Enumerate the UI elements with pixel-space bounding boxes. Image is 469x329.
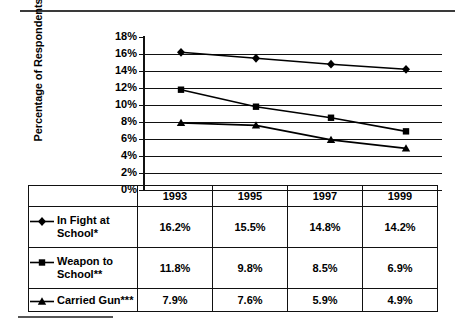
line-chart: Percentage of Respondents 18%16%14%12%10… bbox=[0, 0, 469, 200]
year-header-1997: 1997 bbox=[288, 186, 363, 207]
data-cell: 4.9% bbox=[363, 289, 438, 312]
legend-cell: In Fight atSchool* bbox=[29, 207, 138, 248]
year-header-1999: 1999 bbox=[363, 186, 438, 207]
square-legend-icon bbox=[29, 256, 55, 269]
square-marker-icon bbox=[403, 128, 409, 134]
data-cell: 9.8% bbox=[213, 248, 288, 289]
diamond-icon bbox=[29, 215, 55, 228]
diamond-marker-icon bbox=[252, 54, 260, 63]
y-tick-label: 4% bbox=[103, 150, 137, 161]
diamond-marker-icon bbox=[38, 217, 46, 226]
series-line bbox=[181, 90, 406, 132]
legend-cell: Carried Gun*** bbox=[29, 289, 138, 312]
data-cell: 8.5% bbox=[288, 248, 363, 289]
diamond-marker-icon bbox=[177, 48, 185, 57]
square-marker-icon bbox=[178, 87, 184, 93]
y-tick-label: 2% bbox=[103, 167, 137, 178]
triangle-legend-icon bbox=[29, 295, 55, 308]
legend-label-line2: School** bbox=[57, 268, 102, 280]
y-tick-label: 6% bbox=[103, 133, 137, 144]
data-table: 1993199519971999In Fight atSchool*16.2%1… bbox=[28, 185, 438, 312]
data-cell: 14.2% bbox=[363, 207, 438, 248]
square-marker-icon bbox=[39, 259, 45, 265]
table-row: In Fight atSchool*16.2%15.5%14.8%14.2% bbox=[29, 207, 438, 248]
square-marker-icon bbox=[328, 115, 334, 121]
y-tick-label: 12% bbox=[103, 82, 137, 93]
data-cell: 14.8% bbox=[288, 207, 363, 248]
year-header-1995: 1995 bbox=[213, 186, 288, 207]
series-2 bbox=[178, 87, 409, 135]
y-tick-label: 10% bbox=[103, 99, 137, 110]
series-line bbox=[181, 52, 406, 69]
y-tick-label: 16% bbox=[103, 48, 137, 59]
triangle-icon bbox=[29, 295, 55, 308]
diamond-marker-icon bbox=[327, 60, 335, 69]
year-header-1993: 1993 bbox=[138, 186, 213, 207]
footnote-rule bbox=[18, 316, 113, 318]
table-row: Weapon toSchool**11.8%9.8%8.5%6.9% bbox=[29, 248, 438, 289]
legend-label: Weapon toSchool** bbox=[57, 255, 137, 281]
y-tick-label: 18% bbox=[103, 31, 137, 42]
data-cell: 11.8% bbox=[138, 248, 213, 289]
table-header-row: 1993199519971999 bbox=[29, 186, 438, 207]
series-1 bbox=[177, 48, 410, 74]
table-corner-spacer bbox=[29, 186, 138, 207]
diamond-marker-icon bbox=[402, 65, 410, 74]
data-cell: 6.9% bbox=[363, 248, 438, 289]
y-tick-label: 8% bbox=[103, 116, 137, 127]
legend-label: Carried Gun*** bbox=[57, 294, 137, 307]
square-marker-icon bbox=[253, 104, 259, 110]
diamond-legend-icon bbox=[29, 215, 55, 228]
y-tick-label: 14% bbox=[103, 65, 137, 76]
square-icon bbox=[29, 256, 55, 269]
legend-label-line2: School* bbox=[57, 227, 98, 239]
y-axis-title: Percentage of Respondents bbox=[32, 0, 48, 150]
table-row: Carried Gun***7.9%7.6%5.9%4.9% bbox=[29, 289, 438, 312]
legend-label: In Fight atSchool* bbox=[57, 214, 137, 240]
series-3 bbox=[177, 119, 410, 152]
data-cell: 7.6% bbox=[213, 289, 288, 312]
data-cell: 7.9% bbox=[138, 289, 213, 312]
data-cell: 16.2% bbox=[138, 207, 213, 248]
legend-cell: Weapon toSchool** bbox=[29, 248, 138, 289]
series-line bbox=[181, 123, 406, 149]
series-plot bbox=[145, 37, 445, 192]
data-table-wrap: 1993199519971999In Fight atSchool*16.2%1… bbox=[28, 185, 438, 310]
data-cell: 15.5% bbox=[213, 207, 288, 248]
data-cell: 5.9% bbox=[288, 289, 363, 312]
